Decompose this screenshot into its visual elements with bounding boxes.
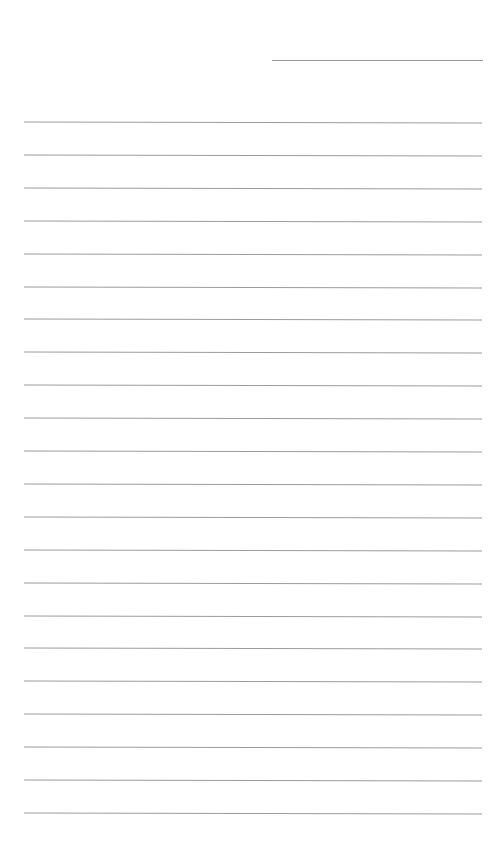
ruled-line: [24, 484, 482, 486]
header-field-line: [272, 60, 483, 61]
ruled-line: [24, 550, 482, 552]
ruled-line: [24, 616, 482, 618]
ruled-line: [24, 221, 482, 223]
ruled-line: [24, 681, 482, 683]
ruled-line: [24, 155, 482, 157]
ruled-line: [24, 319, 482, 321]
lined-paper-page: [0, 0, 503, 848]
ruled-line: [24, 451, 482, 453]
ruled-line: [24, 418, 482, 420]
ruled-line: [24, 287, 482, 289]
ruled-line: [24, 648, 482, 650]
ruled-line: [24, 747, 482, 749]
ruled-line: [24, 780, 482, 782]
ruled-line: [24, 583, 482, 585]
ruled-line: [24, 714, 482, 716]
ruled-line: [24, 254, 482, 256]
ruled-line: [24, 517, 482, 519]
ruled-line: [24, 385, 482, 387]
ruled-line: [24, 813, 482, 815]
ruled-line: [24, 122, 482, 124]
ruled-line: [24, 352, 482, 354]
ruled-line: [24, 188, 482, 190]
